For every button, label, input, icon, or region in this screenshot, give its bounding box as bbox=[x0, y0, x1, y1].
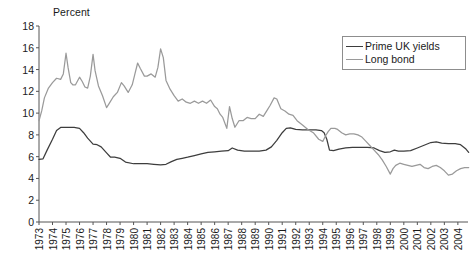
x-axis-tick-label: 1988 bbox=[237, 228, 248, 250]
x-axis-tick-label: 1985 bbox=[196, 228, 207, 250]
x-axis-tick-label: 1975 bbox=[61, 228, 72, 250]
x-axis-tick-label: 1980 bbox=[129, 228, 140, 250]
legend-line-swatch bbox=[346, 46, 363, 47]
x-axis-tick-label: 1998 bbox=[372, 228, 383, 250]
series-line-1 bbox=[39, 127, 469, 165]
x-axis-tick-label: 1979 bbox=[115, 228, 126, 250]
x-axis-tick-label: 1990 bbox=[264, 228, 275, 250]
legend-line-swatch bbox=[346, 59, 363, 60]
x-axis-tick-label: 1999 bbox=[385, 228, 396, 250]
x-axis-tick-label: 2000 bbox=[399, 228, 410, 250]
x-axis-tick-label: 1978 bbox=[102, 228, 113, 250]
x-axis-tick-label: 2001 bbox=[412, 228, 423, 250]
x-axis-tick-label: 1991 bbox=[277, 228, 288, 250]
x-axis-tick-label: 1976 bbox=[75, 228, 86, 250]
x-axis-tick-label: 1973 bbox=[34, 228, 45, 250]
x-axis-tick-label: 1987 bbox=[223, 228, 234, 250]
chart-container: Percent 024681012141618 1973197419751976… bbox=[0, 0, 473, 268]
x-axis-tick-label: 1994 bbox=[318, 228, 329, 250]
x-axis-tick-label: 1992 bbox=[291, 228, 302, 250]
legend-item-label: Prime UK yields bbox=[365, 40, 440, 53]
legend-item: Prime UK yields bbox=[346, 40, 461, 53]
x-axis-tick-label: 1989 bbox=[250, 228, 261, 250]
legend-item-label: Long bond bbox=[365, 53, 415, 66]
x-axis-tick-label: 2002 bbox=[426, 228, 437, 250]
chart-legend: Prime UK yieldsLong bond bbox=[342, 36, 466, 70]
x-axis-tick-label: 1983 bbox=[169, 228, 180, 250]
x-axis-tick-label: 1977 bbox=[88, 228, 99, 250]
x-axis-tick-label: 1993 bbox=[304, 228, 315, 250]
x-axis-tick-label: 1996 bbox=[345, 228, 356, 250]
x-axis-tick-label: 2003 bbox=[439, 228, 450, 250]
x-axis-tick-label: 1981 bbox=[142, 228, 153, 250]
x-axis-tick-label: 1997 bbox=[358, 228, 369, 250]
legend-item: Long bond bbox=[346, 53, 461, 66]
x-axis-tick-label: 1986 bbox=[210, 228, 221, 250]
x-axis-tick-label: 2004 bbox=[453, 228, 464, 250]
x-axis-tick-label: 1982 bbox=[156, 228, 167, 250]
x-axis-tick-label: 1984 bbox=[183, 228, 194, 250]
x-axis-tick-label: 1995 bbox=[331, 228, 342, 250]
x-axis-tick-label: 1974 bbox=[48, 228, 59, 250]
